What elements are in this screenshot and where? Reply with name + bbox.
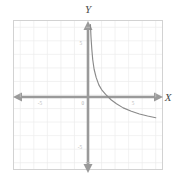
x-tick-label-neg5: -5	[38, 100, 43, 106]
x-tick-label-5: 5	[132, 100, 135, 106]
y-tick-label-neg5: -5	[78, 144, 83, 150]
coordinate-plane: -5 5 5 -5 0 X Y	[0, 0, 176, 176]
y-axis-title: Y	[85, 3, 93, 15]
origin-label: 0	[81, 100, 84, 106]
x-axis-title: X	[164, 91, 173, 103]
graph-figure: -5 5 5 -5 0 X Y	[0, 0, 176, 176]
y-tick-label-5: 5	[79, 40, 82, 46]
